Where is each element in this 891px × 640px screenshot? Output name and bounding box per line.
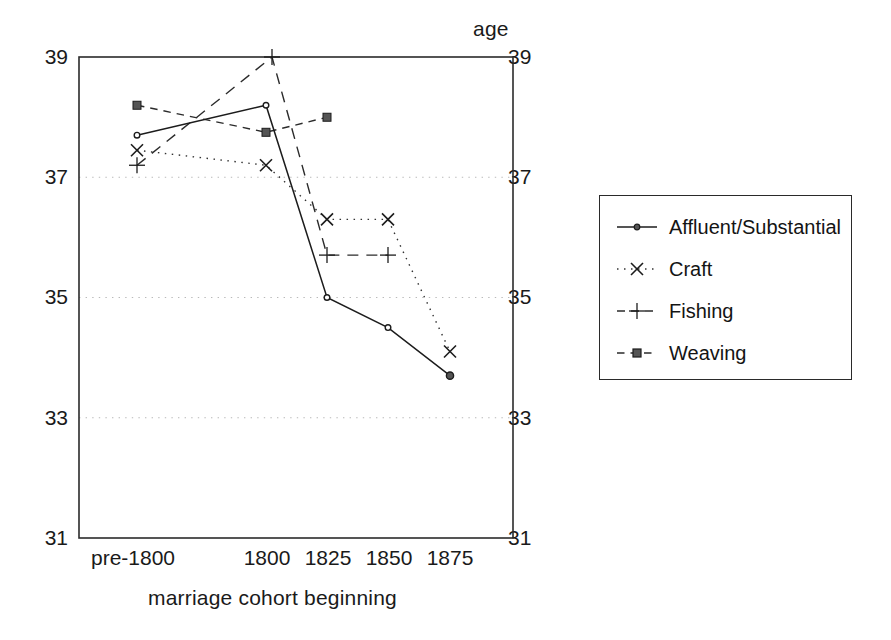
marker-affluent-pre-1800	[134, 132, 140, 138]
marker-affluent-1800	[263, 102, 269, 108]
legend-item-weaving[interactable]: Weaving	[613, 336, 746, 370]
series-craft	[131, 144, 456, 357]
legend-label-affluent-substantial: Affluent/Substantial	[669, 216, 841, 239]
marker-fishing-1800	[264, 49, 280, 65]
marker-affluent-1825	[324, 295, 330, 301]
legend-key-craft-icon	[613, 260, 665, 278]
legend-label-craft: Craft	[669, 258, 712, 281]
marker-fishing-1850	[380, 247, 396, 263]
legend: Affluent/Substantial Craft Fishing	[599, 195, 852, 380]
marker-affluent-1850	[385, 325, 391, 331]
marker-craft-1875	[444, 346, 456, 358]
legend-item-affluent-substantial[interactable]: Affluent/Substantial	[613, 210, 841, 244]
series-fishing	[129, 49, 396, 263]
legend-label-fishing: Fishing	[669, 300, 733, 323]
marker-weaving-1800	[262, 128, 270, 136]
chart-figure: age 39 37 35 33 31 39 37 35 33 31 pre-18…	[0, 0, 891, 640]
legend-key-weaving-icon	[613, 344, 665, 362]
marker-craft-pre-1800	[131, 144, 143, 156]
series-weaving	[133, 101, 331, 136]
legend-label-weaving: Weaving	[669, 342, 746, 365]
legend-key-fishing-icon	[613, 302, 665, 320]
plot-frame	[79, 57, 513, 538]
marker-craft-1800	[260, 159, 272, 171]
marker-weaving-1825	[323, 113, 331, 121]
marker-weaving-pre-1800	[133, 101, 141, 109]
marker-craft-1825	[321, 213, 333, 225]
marker-fishing-pre-1800	[129, 157, 145, 173]
legend-item-craft[interactable]: Craft	[613, 252, 712, 286]
series-affluent-substantial	[134, 102, 453, 379]
marker-craft-1850	[382, 213, 394, 225]
marker-affluent-1875	[446, 372, 453, 379]
legend-key-affluent-icon	[613, 218, 665, 236]
marker-fishing-1825	[319, 247, 335, 263]
legend-item-fishing[interactable]: Fishing	[613, 294, 733, 328]
